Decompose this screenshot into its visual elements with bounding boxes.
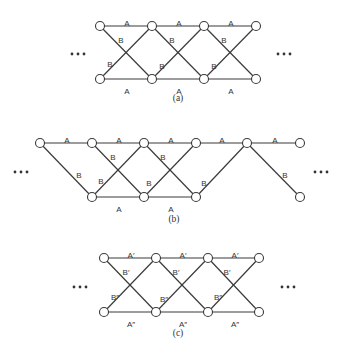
edge-t5-b6 — [247, 143, 300, 197]
panel-caption: (a) — [173, 93, 184, 104]
node-b4 — [192, 193, 201, 202]
node-b1 — [96, 75, 105, 84]
edge-label: B — [211, 62, 216, 71]
edge-label: B′ — [224, 268, 231, 277]
node-t6 — [296, 139, 305, 148]
ellipsis-icon — [71, 53, 86, 56]
edge-label: B″ — [160, 295, 168, 304]
edge-label: A″ — [127, 320, 135, 329]
edge-label: A′ — [180, 251, 187, 260]
node-t5 — [243, 139, 252, 148]
edge-label: A — [272, 136, 278, 145]
node-b3 — [204, 308, 213, 317]
node-b3 — [200, 75, 209, 84]
node-t3 — [140, 139, 149, 148]
edge-label: B — [118, 36, 123, 45]
node-b6 — [296, 193, 305, 202]
edge-label: A — [168, 205, 174, 214]
panel-c: A′A′A′A″A″A″B′B′B′B″B″B″(c) — [73, 251, 296, 339]
node-b2 — [152, 308, 161, 317]
node-t4 — [255, 254, 264, 263]
edge-label: A′ — [128, 251, 135, 260]
edge-label: A — [176, 19, 182, 28]
node-t2 — [148, 22, 157, 31]
edge-label: A — [228, 19, 234, 28]
ellipsis-icon — [314, 171, 329, 174]
edge-label: A — [228, 87, 234, 96]
edge-b4-t5 — [196, 143, 247, 197]
edge-label: A — [124, 19, 130, 28]
edge-label: B — [146, 179, 151, 188]
edge-label: A — [124, 87, 130, 96]
edge-label: B — [159, 62, 164, 71]
edge-label: B′ — [123, 268, 130, 277]
node-b3 — [140, 193, 149, 202]
edge-label: B — [160, 153, 165, 162]
node-t3 — [200, 22, 209, 31]
edge-label: B″ — [111, 293, 119, 302]
edge-t1-b2 — [40, 143, 92, 197]
ellipsis-icon — [73, 286, 88, 289]
node-t2 — [152, 254, 161, 263]
edge-label: B′ — [173, 268, 180, 277]
node-t3 — [204, 254, 213, 263]
edge-label: B — [107, 60, 112, 69]
edge-label: A — [116, 136, 122, 145]
edge-label: B — [110, 153, 115, 162]
ellipsis-icon — [281, 286, 296, 289]
edge-label: B — [98, 177, 103, 186]
panel-a: AAAAAABBBBBB(a) — [71, 19, 292, 104]
edge-label: A — [116, 205, 122, 214]
edge-label: B″ — [214, 293, 222, 302]
node-t4 — [252, 22, 261, 31]
edge-label: A — [64, 136, 70, 145]
panel-b: AAAAAAABBBBBBB(b) — [14, 136, 329, 225]
node-t4 — [192, 139, 201, 148]
edge-label: B — [76, 171, 81, 180]
edge-label: A — [168, 136, 174, 145]
node-t1 — [100, 254, 109, 263]
node-t1 — [96, 22, 105, 31]
node-b1 — [100, 308, 109, 317]
node-b4 — [252, 75, 261, 84]
ellipsis-icon — [277, 53, 292, 56]
node-b4 — [255, 308, 264, 317]
node-b2 — [148, 75, 157, 84]
node-t2 — [88, 139, 97, 148]
panel-caption: (c) — [173, 328, 184, 339]
node-t1 — [36, 139, 45, 148]
edge-label: B — [169, 36, 174, 45]
panel-caption: (b) — [168, 214, 179, 225]
edge-label: A — [219, 136, 225, 145]
trellis-diagram: AAAAAABBBBBB(a)AAAAAAABBBBBBB(b)A′A′A′A″… — [0, 0, 350, 345]
edge-label: A″ — [231, 320, 239, 329]
edge-label: B — [282, 171, 287, 180]
ellipsis-icon — [14, 171, 29, 174]
edge-label: B — [201, 179, 206, 188]
edge-label: B — [221, 36, 226, 45]
node-b2 — [88, 193, 97, 202]
edge-label: A′ — [232, 251, 239, 260]
